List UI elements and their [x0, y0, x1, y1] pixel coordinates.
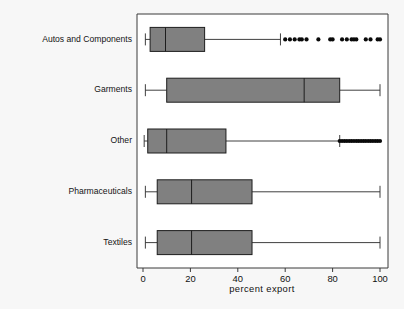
outlier-point [364, 37, 368, 41]
x-tick-label: 100 [372, 273, 388, 284]
category-label-4: Textiles [103, 237, 132, 247]
category-label-3: Pharmaceuticals [68, 186, 132, 196]
outlier-point [304, 37, 308, 41]
outlier-point [354, 37, 358, 41]
x-tick-label: 0 [140, 273, 145, 284]
outlier-point [340, 37, 344, 41]
category-label-0: Autos and Components [42, 34, 132, 44]
outlier-point [345, 37, 349, 41]
box-rect [148, 129, 226, 153]
boxplot-canvas: 020406080100 Autos and ComponentsGarment… [0, 0, 404, 309]
x-tick-label: 20 [185, 273, 195, 284]
box-rect [157, 231, 252, 255]
box-rect [150, 27, 205, 51]
box-rect [167, 78, 340, 102]
outlier-point [300, 37, 304, 41]
category-label-2: Other [111, 135, 133, 145]
outlier-point [368, 37, 372, 41]
chart-figure: 020406080100 Autos and ComponentsGarment… [0, 0, 404, 309]
outlier-point [378, 139, 382, 143]
outlier-point [378, 37, 382, 41]
outlier-point [283, 37, 287, 41]
box-rect [157, 180, 252, 204]
category-labels: Autos and ComponentsGarmentsOtherPharmac… [42, 34, 132, 247]
category-label-1: Garments [94, 84, 132, 94]
outlier-point [316, 37, 320, 41]
x-axis-title: percent export [229, 283, 295, 294]
outlier-point [331, 37, 335, 41]
outlier-point [288, 37, 292, 41]
x-axis-ticks [143, 268, 380, 272]
outlier-point [293, 37, 297, 41]
x-tick-label: 80 [327, 273, 337, 284]
